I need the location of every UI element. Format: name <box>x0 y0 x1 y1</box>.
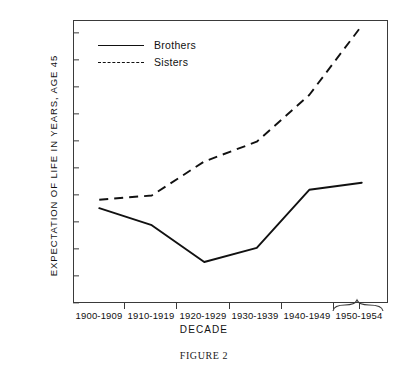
legend-swatch-dashed-icon <box>98 57 144 67</box>
figure-caption: FIGURE 2 <box>0 350 408 361</box>
x-axis-title: DECADE <box>0 324 408 335</box>
legend-item-sisters: Sisters <box>98 53 196 70</box>
legend-label: Sisters <box>154 56 188 68</box>
chart-lines <box>0 0 408 376</box>
figure-panel: EXPECTATION OF LIFE IN YEARS, AGE 45 34.… <box>0 0 408 376</box>
legend-swatch-solid-icon <box>98 40 144 50</box>
series-line-brothers-solid <box>99 183 362 262</box>
legend-item-brothers: Brothers <box>98 36 196 53</box>
legend-label: Brothers <box>154 39 196 51</box>
legend: Brothers Sisters <box>98 36 196 70</box>
